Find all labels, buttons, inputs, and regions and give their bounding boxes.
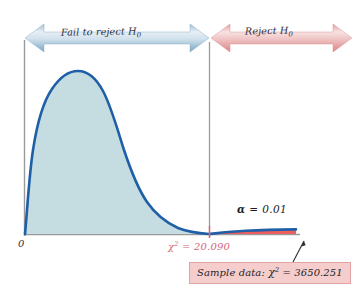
- reject-label-subscript: 0: [288, 30, 293, 38]
- origin-label: 0: [18, 238, 24, 249]
- sample-data-value: = 3650.251: [279, 267, 343, 278]
- critical-value-label: χ2 = 20.090: [168, 240, 230, 252]
- alpha-value: = 0.01: [245, 203, 287, 215]
- sample-data-callout: Sample data: χ2 = 3650.251: [189, 262, 351, 284]
- chi-square-hypothesis-test-figure: Fail to reject H0 Reject H0 0 α = 0.01 χ…: [0, 0, 358, 303]
- fail-to-reject-label-text: Fail to reject H: [61, 25, 137, 37]
- sample-data-prefix: Sample data:: [197, 267, 268, 278]
- fail-to-reject-area: [25, 71, 209, 234]
- fail-to-reject-label: Fail to reject H0: [61, 25, 142, 40]
- alpha-label: α = 0.01: [237, 203, 287, 215]
- reject-label: Reject H0: [245, 25, 293, 40]
- critical-value-text: = 20.090: [179, 241, 231, 252]
- sample-chi-symbol: χ: [268, 266, 275, 279]
- figure-canvas: [0, 0, 358, 303]
- fail-to-reject-label-subscript: 0: [137, 31, 142, 39]
- reject-label-text: Reject H: [245, 25, 289, 37]
- callout-pointer-line: [293, 241, 304, 262]
